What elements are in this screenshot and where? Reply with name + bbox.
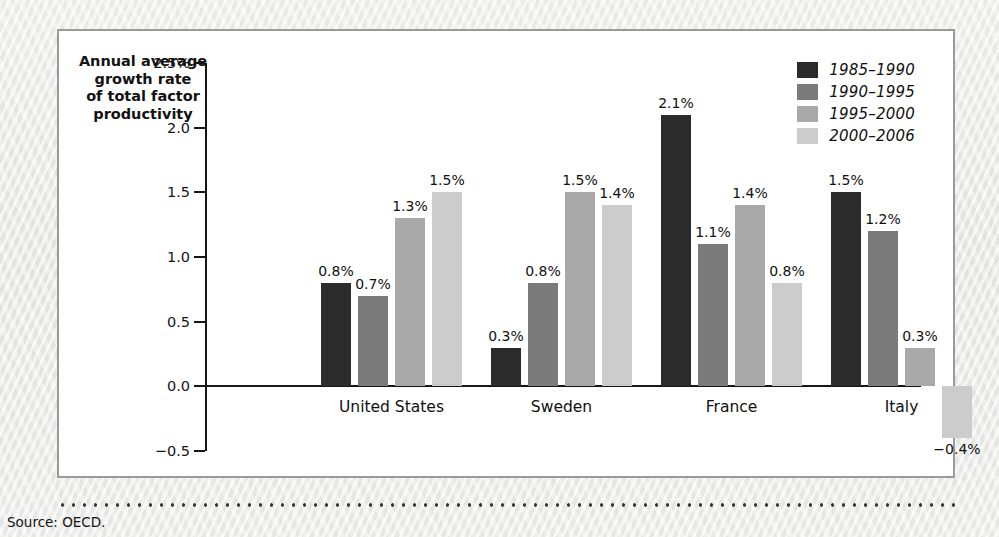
bar-value-label: 1.4% [724,185,776,201]
bar-value-label: 1.3% [384,198,436,214]
bar-value-label: 2.1% [650,95,702,111]
bar-value-label: 1.4% [591,185,643,201]
bar-value-label: 1.5% [421,172,473,188]
y-tick-mark [194,256,205,258]
y-tick-mark [194,450,205,452]
category-label-sweden: Sweden [471,398,652,416]
bar-france-1990-1995[interactable] [698,244,728,386]
bar-value-label: 1.1% [687,224,739,240]
bar-value-label: 0.8% [517,263,569,279]
bar-united-states-2000-2006[interactable] [432,192,462,386]
y-tick-label: −0.5 [155,443,190,459]
y-tick-mark [194,127,205,129]
bar-sweden-2000-2006[interactable] [602,205,632,386]
bar-united-states-1990-1995[interactable] [358,296,388,387]
bar-value-label: 0.7% [347,276,399,292]
zero-axis-line [205,385,921,387]
y-tick-mark [194,321,205,323]
y-tick-mark [194,191,205,193]
bar-united-states-1985-1990[interactable] [321,283,351,386]
bar-value-label: −0.4% [931,441,983,457]
bar-sweden-1990-1995[interactable] [528,283,558,386]
bar-value-label: 0.3% [480,328,532,344]
y-tick-label: 0.5 [167,314,190,330]
bar-value-label: 1.5% [820,172,872,188]
dotted-divider [57,503,955,507]
bar-france-1995-2000[interactable] [735,205,765,386]
source-note: Source: OECD. [7,514,105,530]
category-label-italy: Italy [811,398,992,416]
bar-value-label: 0.3% [894,328,946,344]
y-axis-line [205,63,207,451]
y-tick-label: 1.0 [167,249,190,265]
bar-sweden-1995-2000[interactable] [565,192,595,386]
y-tick-mark [194,62,205,64]
bar-france-1985-1990[interactable] [661,115,691,387]
bar-united-states-1995-2000[interactable] [395,218,425,386]
category-label-united-states: United States [301,398,482,416]
bar-value-label: 1.2% [857,211,909,227]
y-tick-label: 2.5% [153,55,190,71]
y-tick-label: 2.0 [167,120,190,136]
category-label-france: France [641,398,822,416]
figure-panel: Annual average growth rate of total fact… [57,29,955,478]
plot-area: 2.5%2.01.51.00.50.0−0.5 0.8%0.7%1.3%1.5%… [205,51,923,455]
bar-italy-1990-1995[interactable] [868,231,898,386]
y-tick-label: 0.0 [167,378,190,394]
bar-italy-1995-2000[interactable] [905,348,935,387]
bar-sweden-1985-1990[interactable] [491,348,521,387]
y-tick-mark [194,385,205,387]
bar-france-2000-2006[interactable] [772,283,802,386]
y-tick-label: 1.5 [167,184,190,200]
bar-value-label: 0.8% [761,263,813,279]
